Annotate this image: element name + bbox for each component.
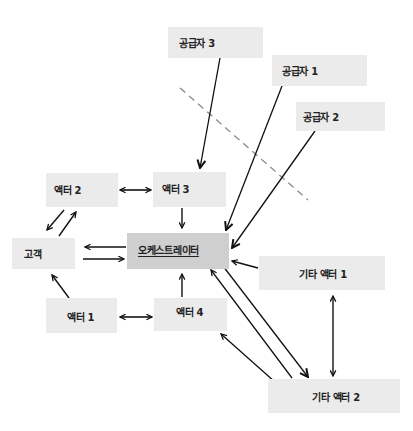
node-label: 액터 3	[162, 181, 189, 196]
edge-otheractor2-actor4	[221, 334, 275, 382]
node-supplier-1: 공급자 1	[272, 55, 367, 86]
edge-otheractor1-orchestrator	[232, 261, 258, 268]
node-label: 액터 2	[54, 182, 81, 197]
node-label: 기타 액터 2	[312, 389, 360, 404]
edge-supplier1-orchestrator	[226, 86, 282, 230]
diagram-canvas: 공급자 3 공급자 1 공급자 2 액터 2 액터 3 고객 오케스트레이터 기…	[0, 0, 413, 431]
node-customer: 고객	[12, 238, 75, 269]
node-other-actor-2: 기타 액터 2	[268, 379, 400, 413]
node-label: 공급자 1	[282, 63, 318, 78]
node-actor-1: 액터 1	[46, 298, 117, 333]
node-supplier-2: 공급자 2	[296, 102, 385, 131]
edge-actor2-customer	[47, 210, 64, 230]
edge-supplier2-orchestrator	[232, 131, 315, 248]
node-label: 액터 1	[67, 309, 94, 324]
node-label: 고객	[24, 246, 41, 261]
edge-customer-actor2	[59, 212, 76, 236]
node-actor-2: 액터 2	[46, 173, 118, 207]
node-actor-3: 액터 3	[153, 172, 226, 207]
node-label: 공급자 3	[179, 35, 215, 50]
edge-supplier3-actor3	[200, 58, 220, 168]
node-label: 액터 4	[176, 304, 203, 319]
node-label: 기타 액터 1	[299, 266, 347, 281]
node-label: 오케스트레이터	[138, 242, 199, 257]
node-actor-4: 액터 4	[154, 298, 227, 331]
node-other-actor-1: 기타 액터 1	[259, 256, 385, 290]
node-supplier-3: 공급자 3	[168, 27, 263, 58]
node-orchestrator: 오케스트레이터	[127, 233, 229, 269]
edge-actor1-customer	[52, 275, 69, 298]
node-label: 공급자 2	[303, 109, 339, 124]
